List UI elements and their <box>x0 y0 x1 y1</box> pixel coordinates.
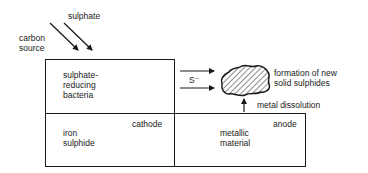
bacteria-label-line1: sulphate- <box>63 70 98 80</box>
precipitate-label-line2: solid sulphides <box>274 78 330 88</box>
carbon-source-label-line1: carbon <box>19 33 45 43</box>
cathode-label-line1: iron <box>63 128 77 138</box>
anode-tag: anode <box>273 119 297 129</box>
carbon-source-arrow <box>50 23 78 50</box>
anode-label-line1: metallic <box>220 128 249 138</box>
bacteria-label-line3: bacteria <box>63 90 93 100</box>
solid-sulphide-deposit-icon <box>222 65 270 95</box>
metal-dissolution-label: metal dissolution <box>257 100 320 110</box>
sulphide-ion-label: S⁻ <box>189 75 200 85</box>
anode-label-line2: material <box>220 138 250 148</box>
carbon-source-label-line2: source <box>19 43 45 53</box>
precipitate-label-line1: formation of new <box>274 68 337 78</box>
sulphate-label: sulphate <box>68 11 100 21</box>
bacteria-label-line2: reducing <box>63 80 96 90</box>
cathode-tag: cathode <box>132 119 162 129</box>
sulphate-arrow <box>64 23 92 50</box>
cathode-label-line2: sulphide <box>63 138 95 148</box>
